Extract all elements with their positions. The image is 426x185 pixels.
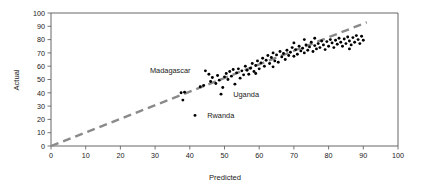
y-tick-label: 100 <box>33 9 45 18</box>
data-point <box>357 38 360 41</box>
data-point <box>341 45 344 48</box>
y-tick-label: 10 <box>37 128 45 137</box>
data-point <box>246 69 249 72</box>
data-point <box>266 54 269 57</box>
data-point <box>313 44 316 47</box>
y-axis-ticks <box>48 13 52 146</box>
data-point <box>277 61 280 64</box>
data-point <box>275 53 278 56</box>
data-point <box>254 72 257 75</box>
data-point <box>289 51 292 54</box>
data-point <box>299 49 302 52</box>
data-point <box>268 62 271 65</box>
data-point <box>345 42 348 45</box>
x-axis-ticks <box>51 146 398 150</box>
y-tick-label: 40 <box>37 89 45 98</box>
y-tick-label: 30 <box>37 102 45 111</box>
x-tick-label: 40 <box>186 151 194 160</box>
data-point <box>216 74 219 77</box>
data-point <box>214 82 217 85</box>
data-point <box>355 34 358 37</box>
data-point <box>258 67 261 70</box>
data-point <box>348 47 351 50</box>
data-point <box>204 69 207 72</box>
data-point <box>181 99 184 102</box>
x-tick-label: 0 <box>49 151 53 160</box>
data-point <box>292 55 295 58</box>
data-point <box>261 57 264 60</box>
data-point <box>272 65 275 68</box>
data-point <box>287 54 290 57</box>
data-point <box>279 50 282 53</box>
data-point <box>331 41 334 44</box>
data-point <box>280 55 283 58</box>
data-point <box>310 41 313 44</box>
data-point <box>272 51 275 54</box>
data-point <box>296 53 299 56</box>
y-tick-label: 70 <box>37 49 45 58</box>
data-point <box>291 46 294 49</box>
data-point <box>263 65 266 68</box>
data-point <box>249 67 252 70</box>
data-point <box>294 48 297 51</box>
data-point <box>254 64 257 67</box>
x-tick-label: 70 <box>290 151 298 160</box>
data-point <box>199 85 202 88</box>
data-point <box>303 38 306 41</box>
data-point <box>228 70 231 73</box>
x-tick-label: 50 <box>221 151 229 160</box>
data-point <box>338 37 341 40</box>
data-point <box>348 39 351 42</box>
x-tick-label: 10 <box>82 151 90 160</box>
data-point <box>312 50 315 53</box>
data-point <box>308 45 311 48</box>
y-tick-label: 50 <box>37 75 45 84</box>
data-point <box>223 75 226 78</box>
x-tick-label: 30 <box>151 151 159 160</box>
y-axis-tick-labels: 0102030405060708090100 <box>33 9 45 151</box>
data-point <box>256 59 259 62</box>
data-point <box>315 47 318 50</box>
data-point <box>265 59 268 62</box>
data-point <box>360 35 363 38</box>
data-point <box>209 80 212 83</box>
data-point <box>343 37 346 40</box>
scatter-plot-figure: 0102030405060708090100 01020304050607080… <box>0 0 426 185</box>
data-point <box>317 42 320 45</box>
data-point <box>211 76 214 79</box>
data-point <box>346 35 349 38</box>
data-point <box>320 39 323 42</box>
data-point <box>339 41 342 44</box>
x-axis-title: Predicted <box>209 173 241 182</box>
data-point <box>313 37 316 40</box>
data-point <box>259 61 262 64</box>
rwanda-label: Rwanda <box>207 111 235 120</box>
data-point <box>351 36 354 39</box>
data-point <box>221 86 224 89</box>
data-point <box>227 78 230 81</box>
x-tick-label: 20 <box>116 151 124 160</box>
data-point <box>303 51 306 54</box>
data-point <box>353 41 356 44</box>
data-point <box>305 43 308 46</box>
data-point <box>301 47 304 50</box>
data-point <box>362 39 365 42</box>
y-tick-label: 60 <box>37 62 45 71</box>
data-point <box>207 73 210 76</box>
data-point <box>233 83 236 86</box>
data-point <box>235 71 238 74</box>
data-point <box>183 91 186 94</box>
data-point <box>247 73 250 76</box>
data-point <box>327 45 330 48</box>
uganda-label: Uganda <box>233 90 260 99</box>
x-axis-tick-labels: 0102030405060708090100 <box>49 151 404 160</box>
x-tick-label: 60 <box>255 151 263 160</box>
data-point <box>322 43 325 46</box>
data-point <box>244 65 247 68</box>
data-point <box>242 73 245 76</box>
y-axis-title: Actual <box>12 69 21 90</box>
data-point <box>318 46 321 49</box>
y-tick-label: 90 <box>37 22 45 31</box>
chart-canvas: 0102030405060708090100 01020304050607080… <box>0 0 426 185</box>
data-point <box>239 77 242 80</box>
